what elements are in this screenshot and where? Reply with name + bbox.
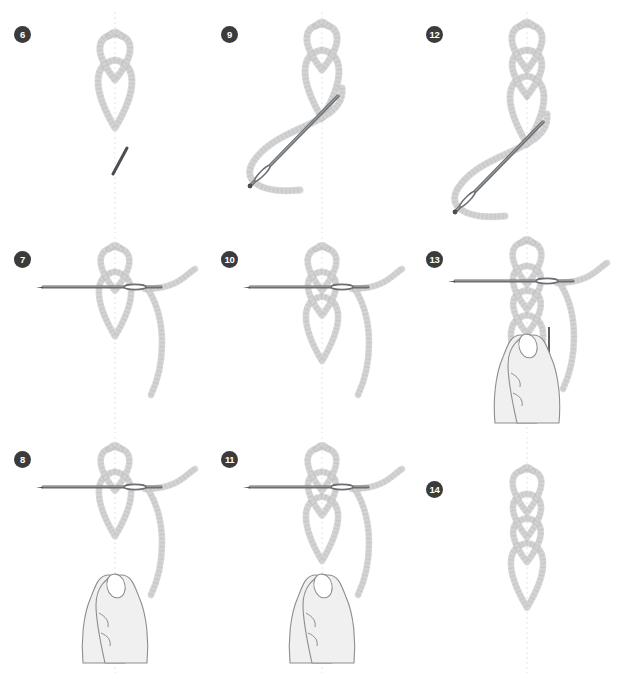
needle-diagonal xyxy=(453,121,544,214)
step-panel-9: 9 xyxy=(215,10,420,235)
step-illustration-6 xyxy=(8,10,213,235)
rope-chain xyxy=(306,445,402,595)
needle-diagonal xyxy=(248,95,339,188)
step-illustration-12 xyxy=(420,10,625,235)
step-illustration-7 xyxy=(8,235,213,435)
step-illustration-9 xyxy=(215,10,420,235)
step-illustration-14 xyxy=(420,435,625,675)
rope-chain xyxy=(455,22,548,217)
step-panel-6: 6 xyxy=(8,10,213,235)
step-panel-14: 14 xyxy=(420,435,625,675)
step-panel-8: 8 xyxy=(8,435,213,675)
step-illustration-11 xyxy=(215,435,420,675)
pinching-hands xyxy=(82,572,147,663)
figure-title: Rope loop knot tying sequence xyxy=(0,0,1,1)
step-panel-11: 11 xyxy=(215,435,420,675)
pinching-hands xyxy=(289,572,354,663)
step-panel-12: 12 xyxy=(420,10,625,235)
step-panel-7: 7 xyxy=(8,235,213,435)
pinching-hands xyxy=(494,332,559,423)
step-panel-13: 13 xyxy=(420,235,625,435)
step-illustration-13 xyxy=(420,235,625,435)
step-panel-10: 10 xyxy=(215,235,420,435)
rope-chain xyxy=(306,245,402,395)
rope-chain xyxy=(99,245,195,395)
needle-short xyxy=(113,148,127,174)
rope-chain xyxy=(99,445,195,595)
step-illustration-10 xyxy=(215,235,420,435)
step-illustration-8 xyxy=(8,435,213,675)
figure-sheet: Rope loop knot tying sequence 6789101112… xyxy=(0,0,629,679)
